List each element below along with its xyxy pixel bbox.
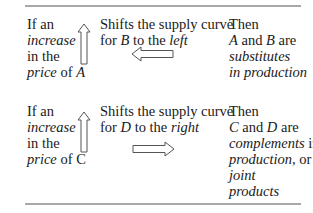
row2-result-var1: C [229, 119, 239, 135]
row2-effect-var: D [121, 119, 131, 135]
row2-result-are: are [277, 119, 298, 135]
row1-result: Then A and B are substitutes in producti… [229, 16, 307, 80]
row2-condition-price: price [27, 151, 57, 167]
bottom-rule [25, 203, 301, 205]
left-arrow-icon [131, 46, 174, 62]
row2-effect-for: for [100, 119, 121, 135]
row2-result-products: products [229, 183, 279, 199]
row2-condition-of: of C [57, 151, 86, 167]
right-arrow-icon [132, 141, 175, 157]
row2-effect-direction: right [171, 119, 199, 135]
row2-result-line1: Then [229, 103, 313, 119]
row1-condition-increase: increase [27, 32, 76, 48]
row1-result-var1: A [229, 32, 238, 48]
row2-result-var2: D [267, 119, 277, 135]
row2-effect: Shifts the supply curve for D to the rig… [100, 103, 233, 135]
row1-result-and: and [238, 32, 266, 48]
row1-effect: Shifts the supply curve for B to the lef… [100, 16, 233, 48]
row1-result-in-production: in production [229, 64, 307, 80]
row2-result: Then C and D are complements in producti… [229, 103, 313, 199]
up-arrow-icon [77, 111, 91, 153]
row2-result-and: and [239, 119, 267, 135]
row2-effect-tothe: to the [131, 119, 171, 135]
row2-result-in: in [305, 135, 313, 151]
row1-condition-price: price [27, 64, 57, 80]
row1-result-are: are [275, 32, 296, 48]
row1-effect-for: for [100, 32, 121, 48]
row1-result-line1: Then [229, 16, 307, 32]
row2-effect-line1: Shifts the supply curve [100, 103, 233, 119]
top-rule [25, 5, 301, 7]
row1-result-var2: B [266, 32, 275, 48]
row1-result-substitutes: substitutes [229, 48, 290, 64]
row2-condition-increase: increase [27, 119, 76, 135]
row2-result-joint: joint [229, 167, 256, 183]
row2-result-complements: complements [229, 135, 305, 151]
row2-result-production: production, [229, 151, 296, 167]
row1-condition-of: of [57, 64, 76, 80]
row1-effect-line1: Shifts the supply curve [100, 16, 233, 32]
row2-result-or: or [296, 151, 312, 167]
up-arrow-icon [77, 23, 91, 65]
row1-condition-var: A [76, 64, 85, 80]
